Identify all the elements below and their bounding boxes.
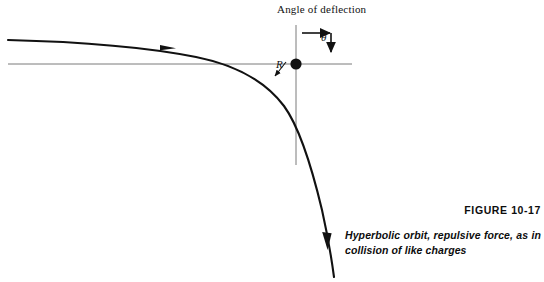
hyperbolic-trajectory-path: [8, 40, 334, 277]
figure-caption-block: FIGURE 10-17 Hyperbolic orbit, repulsive…: [345, 204, 541, 257]
deflection-angle-label: θ: [321, 31, 326, 43]
scattering-center-node: [290, 58, 301, 69]
angle-of-deflection-label: Angle of deflection: [277, 3, 366, 15]
figure-root: Angle of deflection R θ FIGURE 10-17 Hyp…: [0, 0, 544, 282]
figure-caption-text: Hyperbolic orbit, repulsive force, as in…: [345, 228, 541, 257]
incoming-direction-arrowhead: [160, 45, 176, 50]
impact-parameter-label: R: [276, 58, 283, 70]
figure-number-label: FIGURE 10-17: [345, 204, 541, 216]
